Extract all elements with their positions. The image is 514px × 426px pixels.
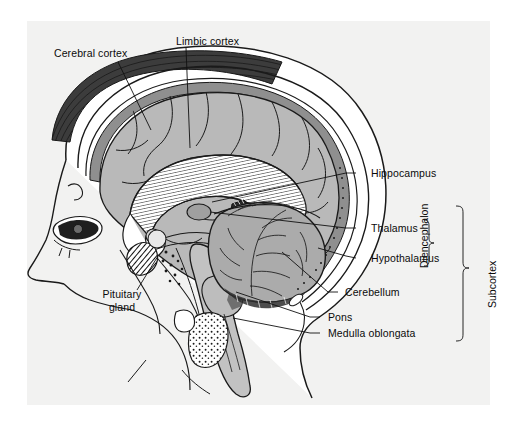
- cervical-vertebra: [128, 310, 228, 394]
- ear-canal: [68, 184, 83, 200]
- bracket-subcortex: [456, 206, 469, 341]
- eye: [53, 217, 102, 258]
- label-cerebellum: Cerebellum: [345, 286, 400, 299]
- bracket-label-diencephalon: Diencephalon: [418, 204, 430, 268]
- label-cerebral-cortex: Cerebral cortex: [54, 47, 127, 60]
- label-hippocampus: Hippocampus: [371, 167, 436, 180]
- thalamus-structure: [187, 204, 211, 220]
- figure-root: Cerebral cortex Limbic cortex Hippocampu…: [0, 0, 514, 426]
- bracket-label-subcortex: Subcortex: [486, 261, 498, 308]
- label-medulla-oblongata: Medulla oblongata: [328, 327, 416, 340]
- brain-sagittal-diagram: [0, 0, 514, 426]
- label-pons: Pons: [328, 311, 352, 324]
- label-limbic-cortex: Limbic cortex: [176, 35, 239, 48]
- label-pituitary-gland: Pituitary gland: [92, 288, 152, 314]
- label-thalamus: Thalamus: [371, 222, 418, 235]
